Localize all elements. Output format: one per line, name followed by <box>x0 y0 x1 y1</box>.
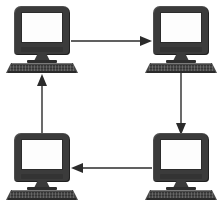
monitor-icon <box>14 6 70 55</box>
keyboard-icon <box>6 63 78 73</box>
computer-node-bottom-left[interactable] <box>6 133 78 201</box>
keyboard-shadow <box>8 71 76 73</box>
monitor-screen <box>21 12 63 43</box>
monitor-chin <box>160 174 202 179</box>
keyboard-icon <box>145 190 217 200</box>
monitor-icon <box>153 6 209 55</box>
connection-arrow-bottom <box>71 163 152 173</box>
ring-topology-diagram <box>0 0 223 207</box>
connection-arrow-top <box>71 36 152 46</box>
monitor-stand-base <box>27 60 57 63</box>
connection-arrow-left <box>37 74 47 133</box>
monitor-stand-base <box>166 60 196 63</box>
computer-node-bottom-right[interactable] <box>145 133 217 201</box>
computer-node-top-right[interactable] <box>145 6 217 74</box>
keyboard-icon <box>145 63 217 73</box>
monitor-chin <box>21 47 63 52</box>
monitor-icon <box>14 133 70 182</box>
monitor-chin <box>21 174 63 179</box>
monitor-chin <box>160 47 202 52</box>
keyboard-top-edge <box>151 63 211 64</box>
keyboard-top-edge <box>12 63 72 64</box>
keyboard-top-edge <box>151 190 211 191</box>
monitor-screen <box>21 139 63 170</box>
monitor-stand-base <box>166 187 196 190</box>
keyboard-shadow <box>147 198 215 200</box>
keyboard-icon <box>6 190 78 200</box>
keyboard-shadow <box>147 71 215 73</box>
connection-arrow-right <box>176 73 186 135</box>
keyboard-shadow <box>8 198 76 200</box>
monitor-screen <box>160 139 202 170</box>
monitor-screen <box>160 12 202 43</box>
computer-node-top-left[interactable] <box>6 6 78 74</box>
monitor-icon <box>153 133 209 182</box>
keyboard-top-edge <box>12 190 72 191</box>
monitor-stand-base <box>27 187 57 190</box>
